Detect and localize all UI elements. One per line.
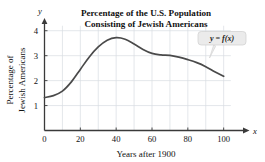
x-tick-label: 20 [76,134,85,144]
x-tick-label: 0 [42,134,46,144]
title-block: Percentage of the U.S. Population Consis… [81,8,211,29]
chart-title-line-2: Consisting of Jewish Americans [84,19,207,29]
x-tick-label: 100 [217,134,230,144]
y-axis-title-line-2: Jewish Americans [17,47,27,113]
curve-callout: y = f(x) [198,32,246,59]
y-tick-label: 4 [34,26,39,36]
x-tick-labels: 020406080100 [42,134,230,144]
y-tick-labels: 1234 [34,26,39,111]
y-tick-label: 1 [34,101,38,111]
callout-label: y = f(x) [209,34,234,43]
x-tick-label: 80 [184,134,193,144]
y-tick-label: 3 [34,51,38,61]
y-axis-title-line-1: Percentage of [5,55,15,104]
chart-canvas: Percentage of the U.S. Population Consis… [0,0,265,162]
y-axis-arrowhead [42,18,48,24]
x-tick-label: 40 [112,134,121,144]
x-axis-title: Years after 1900 [116,149,176,159]
x-tick-label: 60 [148,134,157,144]
chart-title-line-1: Percentage of the U.S. Population [81,8,211,18]
x-axis-arrowhead [243,128,250,134]
x-axis-symbol: x [252,126,257,136]
y-tick-label: 2 [34,76,38,86]
y-axis-title: Percentage of Jewish Americans [5,47,27,113]
chart-figure: Percentage of the U.S. Population Consis… [0,0,265,162]
y-axis-symbol: y [37,6,42,16]
